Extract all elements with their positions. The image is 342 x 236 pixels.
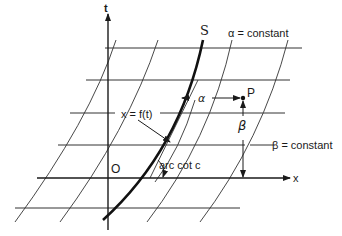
beta-constant-lines xyxy=(15,48,302,208)
x-axis-label: x xyxy=(293,172,299,184)
point-p-label: P xyxy=(247,86,255,100)
point-p xyxy=(241,96,245,100)
coordinate-diagram: t x O S α = constant x = f(t) α P β β = … xyxy=(0,0,342,236)
beta-constant-label: β = constant xyxy=(272,139,332,151)
beta-label: β xyxy=(237,118,246,133)
angle-label: arc cot c xyxy=(159,159,201,171)
equation-label: x = f(t) xyxy=(121,108,152,120)
equation-pointer xyxy=(138,120,170,142)
alpha-constant-label: α = constant xyxy=(228,27,288,39)
t-axis-label: t xyxy=(104,2,108,14)
alpha-constant-curves xyxy=(15,40,288,222)
alpha-label: α xyxy=(198,92,206,105)
origin-label: O xyxy=(111,162,120,176)
curve-s-label: S xyxy=(200,23,209,38)
